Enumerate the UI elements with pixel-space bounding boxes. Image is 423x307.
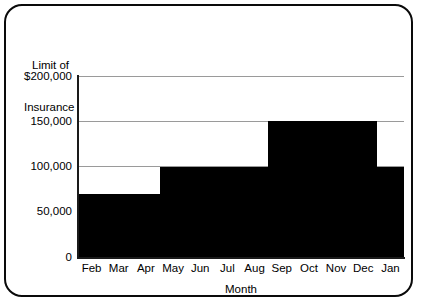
y-tick-label: 0 [8, 252, 72, 263]
x-tick-label: May [162, 262, 184, 275]
x-tick-label: Jan [381, 262, 400, 275]
y-tick-label: 100,000 [8, 161, 72, 172]
y-axis-line [77, 75, 79, 258]
y-axis-tick-labels: 050,000100,000150,000$200,000 [6, 6, 72, 297]
x-tick-label: Nov [326, 262, 346, 275]
x-axis-title: Month [78, 283, 404, 295]
x-tick-label: Mar [109, 262, 129, 275]
x-tick-label: Dec [353, 262, 373, 275]
x-tick-label: Jun [191, 262, 210, 275]
x-tick-label: Jul [220, 262, 235, 275]
step-area [78, 121, 404, 257]
y-tick-label: $200,000 [8, 71, 72, 82]
x-tick-label: Aug [244, 262, 264, 275]
x-axis-line [77, 257, 405, 259]
y-tick-label: 150,000 [8, 116, 72, 127]
plot-area [78, 76, 404, 257]
step-series [78, 76, 404, 257]
x-tick-label: Sep [272, 262, 292, 275]
chart-frame: Limit of Insurance 050,000100,000150,000… [4, 4, 413, 297]
y-tick-label: 50,000 [8, 206, 72, 217]
x-tick-label: Oct [300, 262, 318, 275]
x-tick-label: Apr [137, 262, 155, 275]
x-axis-tick-labels: FebMarAprMayJunJulAugSepOctNovDecJan [78, 262, 404, 278]
x-tick-label: Feb [82, 262, 102, 275]
